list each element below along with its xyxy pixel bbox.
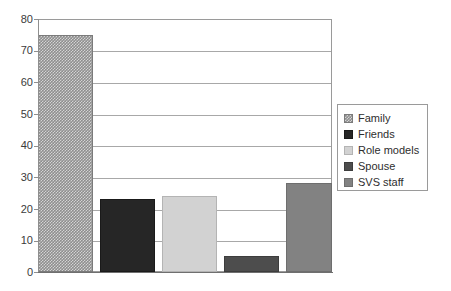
- legend-item-svs-staff[interactable]: SVS staff: [344, 175, 427, 190]
- y-tick-label-50: 50: [21, 109, 33, 120]
- y-axis-tick-labels: 80 70 60 50 40 30 20 10 0: [0, 0, 33, 291]
- y-tick-label-20: 20: [21, 204, 33, 215]
- y-tick-label-0: 0: [27, 267, 33, 278]
- legend-label-role-models: Role models: [358, 145, 419, 156]
- bar-family[interactable]: [38, 35, 93, 272]
- legend-item-spouse[interactable]: Spouse: [344, 159, 427, 174]
- y-tick-label-10: 10: [21, 235, 33, 246]
- legend-swatch-friends-icon: [344, 130, 353, 139]
- bar-chart: 80 70 60 50 40 30 20 10 0: [0, 0, 451, 291]
- legend-swatch-svs-staff-icon: [344, 178, 353, 187]
- y-tick-label-60: 60: [21, 77, 33, 88]
- chart-legend: Family Friends Role models Spouse SVS st…: [337, 104, 428, 191]
- legend-item-role-models[interactable]: Role models: [344, 143, 427, 158]
- bar-series-group: [38, 19, 332, 272]
- legend-label-spouse: Spouse: [358, 161, 395, 172]
- legend-item-family[interactable]: Family: [344, 111, 427, 126]
- y-axis-line: [38, 19, 39, 273]
- legend-label-family: Family: [358, 113, 390, 124]
- bar-svs-staff[interactable]: [286, 183, 332, 272]
- legend-item-friends[interactable]: Friends: [344, 127, 427, 142]
- y-tick-label-30: 30: [21, 172, 33, 183]
- legend-label-svs-staff: SVS staff: [358, 177, 404, 188]
- y-tick-label-80: 80: [21, 14, 33, 25]
- y-tick-label-70: 70: [21, 45, 33, 56]
- legend-label-friends: Friends: [358, 129, 395, 140]
- y-tick-label-40: 40: [21, 140, 33, 151]
- bar-spouse[interactable]: [224, 256, 279, 272]
- legend-swatch-role-models-icon: [344, 146, 353, 155]
- legend-swatch-family-icon: [344, 114, 353, 123]
- bar-friends[interactable]: [100, 199, 155, 272]
- legend-swatch-spouse-icon: [344, 162, 353, 171]
- bar-role-models[interactable]: [162, 196, 217, 272]
- x-axis-line: [38, 272, 333, 273]
